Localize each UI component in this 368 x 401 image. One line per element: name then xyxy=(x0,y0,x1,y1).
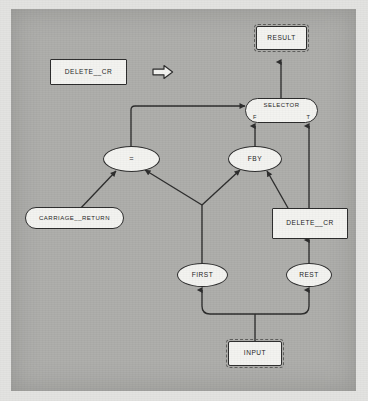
edge-input-rest xyxy=(255,290,309,314)
node-label: INPUT xyxy=(244,350,266,357)
node-input[interactable]: INPUT xyxy=(228,341,282,366)
node-label: REST xyxy=(299,272,319,279)
edge-first-fby xyxy=(202,170,240,205)
selector-port-t: T xyxy=(307,114,310,120)
edge-equals-selector xyxy=(131,106,245,152)
selector-ports: F T xyxy=(253,114,310,120)
node-carriage-return[interactable]: CARRIAGE__RETURN xyxy=(25,207,124,229)
node-first-operator[interactable]: FIRST xyxy=(177,263,228,287)
node-fby-operator[interactable]: FBY xyxy=(228,146,282,172)
scanned-figure: DELETE__CR RESULT SELECTOR F T = FBY CAR… xyxy=(0,0,368,401)
node-selector[interactable]: SELECTOR F T xyxy=(245,98,318,123)
node-label: CARRIAGE__RETURN xyxy=(39,215,110,221)
edge-deletecr-fby xyxy=(267,171,288,208)
right-block-arrow-icon xyxy=(152,64,174,80)
node-rest-operator[interactable]: REST xyxy=(286,263,332,287)
node-equals-operator[interactable]: = xyxy=(103,146,160,172)
node-label: FIRST xyxy=(192,272,214,279)
node-label: RESULT xyxy=(267,35,296,42)
node-definition-delete-cr[interactable]: DELETE__CR xyxy=(50,59,127,85)
node-label: DELETE__CR xyxy=(65,69,113,76)
edge-carriagereturn-equals xyxy=(79,171,116,210)
node-label: DELETE__CR xyxy=(286,220,334,227)
node-delete-cr-recursive[interactable]: DELETE__CR xyxy=(272,208,348,239)
selector-port-f: F xyxy=(253,114,256,120)
node-result[interactable]: RESULT xyxy=(256,26,307,50)
edge-first-equals xyxy=(145,170,202,205)
node-label: = xyxy=(129,155,133,163)
node-label: FBY xyxy=(248,156,262,163)
edge-input-first xyxy=(202,290,255,314)
node-label: SELECTOR xyxy=(263,102,299,108)
